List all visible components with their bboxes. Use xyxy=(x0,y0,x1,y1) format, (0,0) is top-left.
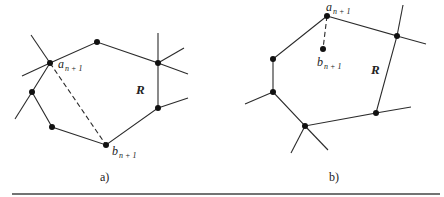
ray xyxy=(158,48,184,63)
point-b-n-plus-1 xyxy=(320,46,326,52)
vertex xyxy=(270,56,276,62)
label-b-n-plus-1: bn + 1 xyxy=(317,55,341,71)
ray xyxy=(15,92,32,119)
region-label-r: R xyxy=(135,82,145,97)
label-a-n-plus-1: an + 1 xyxy=(326,0,350,16)
ray xyxy=(158,63,188,74)
dashed-connector-b xyxy=(323,16,327,49)
panel-a: an + 1 bn + 1 R a) xyxy=(15,33,188,184)
figure-canvas: an + 1 bn + 1 R a) an + 1 bn + 1 R b) xyxy=(0,0,444,197)
vertex xyxy=(155,105,161,111)
ray xyxy=(245,92,273,104)
vertex xyxy=(155,60,161,66)
caption-a: a) xyxy=(100,170,109,184)
vertex xyxy=(394,33,400,39)
ray xyxy=(158,98,188,108)
ray xyxy=(31,35,50,63)
ray xyxy=(305,126,328,150)
ray xyxy=(397,36,426,44)
ray xyxy=(376,107,411,113)
vertex xyxy=(94,39,100,45)
vertex xyxy=(49,124,55,130)
region-label-r: R xyxy=(370,62,380,77)
label-b-n-plus-1: bn + 1 xyxy=(112,144,136,160)
vertex xyxy=(373,110,379,116)
caption-b: b) xyxy=(329,170,339,184)
ray xyxy=(291,126,305,153)
label-a-n-plus-1: an + 1 xyxy=(58,57,82,73)
vertex-a-n-plus-1 xyxy=(47,60,53,66)
vertex-b-n-plus-1 xyxy=(103,142,109,148)
vertex xyxy=(302,123,308,129)
vertex xyxy=(270,89,276,95)
dashed-connector-a xyxy=(50,63,106,145)
panel-b: an + 1 bn + 1 R b) xyxy=(245,0,426,184)
ray xyxy=(397,5,403,36)
vertex xyxy=(29,89,35,95)
